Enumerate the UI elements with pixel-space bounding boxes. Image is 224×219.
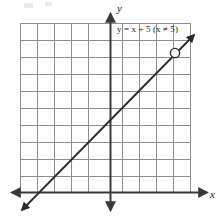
graph-figure: y = x + 5 (x ≠ 5) y x xyxy=(0,0,224,219)
grid-vertical-lines xyxy=(21,23,191,192)
y-axis-label: y xyxy=(117,2,122,14)
grid-horizontal-lines xyxy=(20,24,190,177)
x-axis-label: x xyxy=(210,188,215,200)
open-circle-hole-marker xyxy=(170,48,179,57)
function-line xyxy=(22,35,194,210)
equation-text: y = x + 5 (x ≠ 5) xyxy=(117,24,178,34)
equation-annotation: y = x + 5 (x ≠ 5) xyxy=(117,24,178,34)
coordinate-plane xyxy=(0,0,224,219)
